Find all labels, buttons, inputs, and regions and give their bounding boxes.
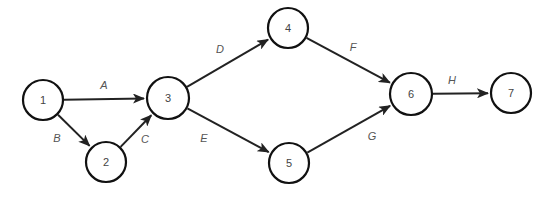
edge-label: E <box>200 132 208 144</box>
node-1: 1 <box>23 80 63 120</box>
edge-d: D <box>187 40 268 87</box>
node-label: 2 <box>103 156 109 168</box>
node-7: 7 <box>491 73 531 113</box>
edge-arrow <box>307 38 390 83</box>
node-label: 1 <box>40 94 46 106</box>
edge-c: C <box>121 115 152 147</box>
edge-label: A <box>99 79 107 91</box>
node-2: 2 <box>86 142 126 182</box>
edge-arrow <box>433 93 488 94</box>
edge-label: G <box>368 130 377 142</box>
edge-arrow <box>187 40 268 87</box>
nodes-layer: 1234567 <box>23 8 531 183</box>
edge-label: F <box>350 41 358 53</box>
edge-label: B <box>53 132 60 144</box>
edge-arrow <box>64 98 144 99</box>
edge-b: B <box>53 115 89 146</box>
network-diagram: ABCDEFGH 1234567 <box>0 0 542 197</box>
node-label: 4 <box>285 22 291 34</box>
edge-arrow <box>307 106 390 153</box>
edge-label: H <box>448 74 456 86</box>
edge-f: F <box>307 38 390 83</box>
node-label: 5 <box>286 157 292 169</box>
node-label: 3 <box>165 92 171 104</box>
node-label: 6 <box>408 88 414 100</box>
node-5: 5 <box>269 143 309 183</box>
edge-label: C <box>141 133 149 145</box>
edge-label: D <box>216 43 224 55</box>
node-4: 4 <box>268 8 308 48</box>
node-label: 7 <box>508 87 514 99</box>
edge-arrow <box>58 115 90 146</box>
node-3: 3 <box>147 77 189 119</box>
edge-arrow <box>187 108 268 152</box>
edge-g: G <box>307 106 390 153</box>
edge-e: E <box>187 108 268 152</box>
edge-h: H <box>433 74 488 94</box>
node-6: 6 <box>390 73 432 115</box>
edge-a: A <box>64 79 144 100</box>
